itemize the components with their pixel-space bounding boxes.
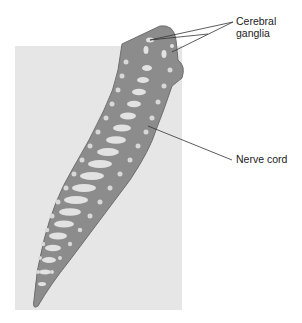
nerve-cord-leader bbox=[148, 126, 232, 160]
nerve-cord-label: Nerve cord bbox=[236, 153, 287, 165]
cerebral-ganglia-label-line1: Cerebral bbox=[236, 15, 276, 27]
cerebral-ganglia-label-line2: ganglia bbox=[236, 27, 276, 39]
cerebral-ganglia-label: Cerebral ganglia bbox=[236, 15, 276, 39]
